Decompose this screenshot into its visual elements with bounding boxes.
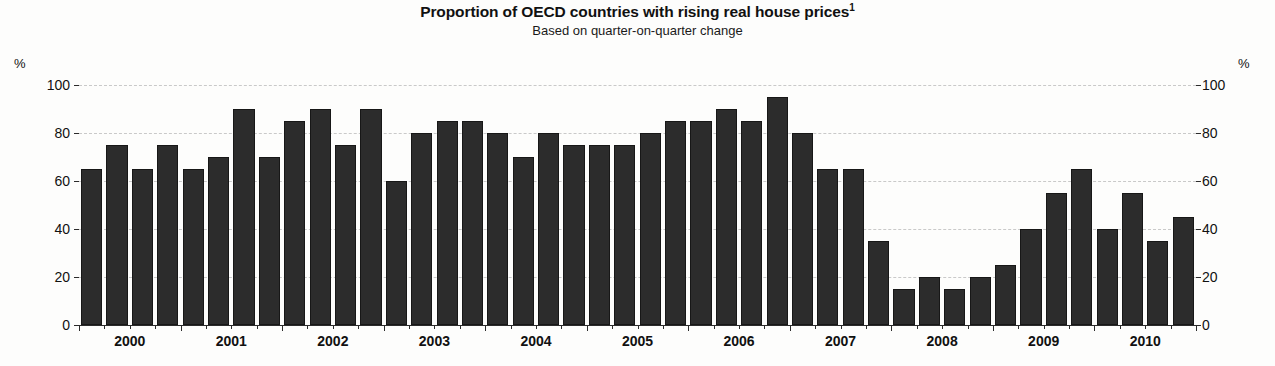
bar — [462, 121, 483, 325]
y-tick-right-20 — [1196, 277, 1201, 278]
x-axis-label-2009: 2009 — [993, 333, 1095, 349]
y-axis-unit-left: % — [14, 56, 26, 71]
y-axis-label-left-20: 20 — [26, 270, 70, 284]
bar — [335, 145, 356, 325]
plot-area — [79, 85, 1196, 325]
bar — [106, 145, 127, 325]
bar — [741, 121, 762, 325]
bar — [563, 145, 584, 325]
y-axis-label-left-0: 0 — [26, 318, 70, 332]
bar — [233, 109, 254, 325]
bar — [513, 157, 534, 325]
y-axis-label-right-20: 20 — [1202, 270, 1246, 284]
bar — [1147, 241, 1168, 325]
title-block: Proportion of OECD countries with rising… — [0, 2, 1275, 39]
bar — [386, 181, 407, 325]
bar — [360, 109, 381, 325]
y-axis-label-left-40: 40 — [26, 222, 70, 236]
bar — [716, 109, 737, 325]
bar — [259, 157, 280, 325]
bar — [944, 289, 965, 325]
y-axis-label-left-60: 60 — [26, 174, 70, 188]
bar — [868, 241, 889, 325]
bar — [1071, 169, 1092, 325]
x-axis-label-2008: 2008 — [891, 333, 993, 349]
bar — [919, 277, 940, 325]
bar — [690, 121, 711, 325]
bar — [995, 265, 1016, 325]
y-axis-label-right-80: 80 — [1202, 126, 1246, 140]
x-axis-label-2002: 2002 — [282, 333, 384, 349]
y-tick-right-80 — [1196, 133, 1201, 134]
y-axis-label-right-100: 100 — [1202, 78, 1246, 92]
y-axis-label-left-80: 80 — [26, 126, 70, 140]
bar — [437, 121, 458, 325]
bar — [157, 145, 178, 325]
bar — [843, 169, 864, 325]
bar — [1097, 229, 1118, 325]
bar — [208, 157, 229, 325]
bar — [1046, 193, 1067, 325]
bar — [81, 169, 102, 325]
bar — [893, 289, 914, 325]
bar — [665, 121, 686, 325]
y-axis-label-right-60: 60 — [1202, 174, 1246, 188]
y-axis-label-right-0: 0 — [1202, 318, 1246, 332]
bar — [538, 133, 559, 325]
bar — [970, 277, 991, 325]
chart-title-text: Proportion of OECD countries with rising… — [420, 3, 849, 20]
chart-title-footnote-marker: 1 — [849, 2, 854, 13]
bar — [1122, 193, 1143, 325]
bar — [767, 97, 788, 325]
y-axis-label-left-100: 100 — [26, 78, 70, 92]
bar — [183, 169, 204, 325]
bar — [1173, 217, 1194, 325]
bar — [1020, 229, 1041, 325]
bar — [589, 145, 610, 325]
bar — [817, 169, 838, 325]
bar — [411, 133, 432, 325]
chart-figure: Proportion of OECD countries with rising… — [0, 0, 1275, 366]
x-axis-label-2000: 2000 — [79, 333, 181, 349]
bar-series — [79, 85, 1196, 325]
chart-title: Proportion of OECD countries with rising… — [0, 2, 1275, 21]
bar — [792, 133, 813, 325]
chart-subtitle: Based on quarter-on-quarter change — [0, 22, 1275, 39]
x-axis-label-2005: 2005 — [587, 333, 689, 349]
bar — [310, 109, 331, 325]
x-axis-label-2010: 2010 — [1094, 333, 1196, 349]
x-axis-label-2003: 2003 — [383, 333, 485, 349]
bar — [284, 121, 305, 325]
bar — [132, 169, 153, 325]
bar — [487, 133, 508, 325]
y-axis-label-right-40: 40 — [1202, 222, 1246, 236]
y-tick-right-60 — [1196, 181, 1201, 182]
x-axis-label-2006: 2006 — [688, 333, 790, 349]
y-tick-right-100 — [1196, 85, 1201, 86]
y-tick-right-40 — [1196, 229, 1201, 230]
x-axis-label-2007: 2007 — [790, 333, 892, 349]
bar — [640, 133, 661, 325]
x-axis-baseline — [75, 325, 1200, 326]
x-axis-label-2004: 2004 — [485, 333, 587, 349]
x-axis-label-2001: 2001 — [180, 333, 282, 349]
bar — [614, 145, 635, 325]
y-axis-unit-right: % — [1238, 56, 1250, 71]
